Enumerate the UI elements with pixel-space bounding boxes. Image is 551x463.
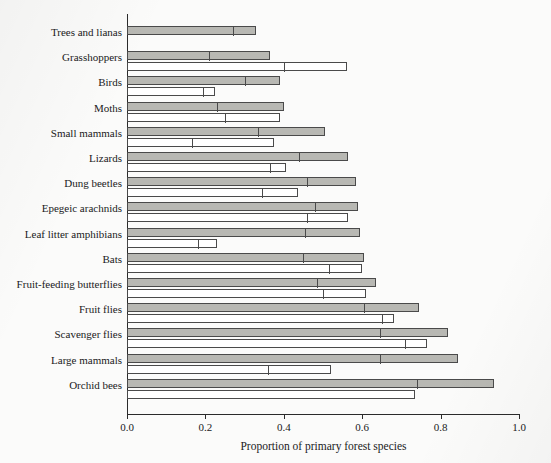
bar-segment-divider (284, 63, 285, 72)
bar-shaded (127, 102, 284, 111)
x-tick (362, 414, 363, 419)
bar-shaded (127, 127, 325, 136)
bar-open (127, 314, 394, 323)
chart-container: 0.00.20.40.60.81.0 Trees and lianasGrass… (0, 0, 551, 463)
category-label: Grasshoppers (62, 52, 122, 63)
category-label: Orchid bees (69, 380, 122, 391)
bar-open (127, 339, 427, 348)
bar-segment-divider (245, 77, 246, 86)
bar-segment-divider (405, 340, 406, 349)
bar-open (127, 264, 362, 273)
category-label-row: Small mammals (0, 128, 122, 139)
x-tick (441, 414, 442, 419)
bar-segment-divider (258, 128, 259, 137)
x-tick-label: 0.4 (277, 421, 291, 433)
category-label: Dung beetles (64, 178, 122, 189)
category-label: Fruit flies (79, 304, 122, 315)
bar-segment-divider (307, 214, 308, 223)
category-label: Trees and lianas (51, 27, 122, 38)
bar-open (127, 163, 286, 172)
bar-shaded (127, 354, 458, 363)
category-label: Leaf litter amphibians (25, 229, 122, 240)
bar-segment-divider (209, 52, 210, 61)
category-label-row: Lizards (0, 153, 122, 164)
x-tick-label: 0.0 (120, 421, 134, 433)
category-label: Large mammals (51, 355, 122, 366)
bar-shaded (127, 303, 419, 312)
bar-shaded (127, 379, 494, 388)
bar-segment-divider (262, 189, 263, 198)
category-label-row: Moths (0, 103, 122, 114)
category-label-row: Fruit-feeding butterflies (0, 279, 122, 290)
bar-segment-divider (329, 265, 330, 274)
bar-segment-divider (192, 139, 193, 148)
bar-segment-divider (303, 254, 304, 263)
bar-open (127, 87, 215, 96)
bar-segment-divider (307, 178, 308, 187)
bar-segment-divider (380, 329, 381, 338)
bar-shaded (127, 328, 448, 337)
bar-segment-divider (233, 27, 234, 36)
category-label: Fruit-feeding butterflies (17, 279, 122, 290)
category-label: Lizards (89, 153, 122, 164)
bar-segment-divider (203, 88, 204, 97)
bar-shaded (127, 278, 376, 287)
bar-open (127, 188, 298, 197)
bar-segment-divider (382, 315, 383, 324)
category-label-row: Fruit flies (0, 304, 122, 315)
x-tick-label: 1.0 (512, 421, 526, 433)
bar-open (127, 390, 415, 399)
bar-shaded (127, 253, 364, 262)
x-tick (127, 414, 128, 419)
bar-segment-divider (315, 203, 316, 212)
category-label: Moths (94, 103, 122, 114)
category-label-row: Leaf litter amphibians (0, 229, 122, 240)
bar-segment-divider (268, 366, 269, 375)
x-tick (519, 414, 520, 419)
category-label-row: Trees and lianas (0, 27, 122, 38)
bar-open (127, 213, 348, 222)
bar-segment-divider (364, 304, 365, 313)
category-label-row: Bats (0, 254, 122, 265)
bar-segment-divider (198, 240, 199, 249)
bar-segment-divider (305, 229, 306, 238)
category-label: Birds (98, 77, 122, 88)
bar-segment-divider (317, 279, 318, 288)
x-tick-label: 0.6 (355, 421, 369, 433)
x-tick (284, 414, 285, 419)
bar-open (127, 289, 366, 298)
bar-segment-divider (225, 114, 226, 123)
bar-segment-divider (417, 380, 418, 389)
category-label-row: Birds (0, 77, 122, 88)
bar-open (127, 62, 347, 71)
category-label: Scavenger flies (55, 329, 123, 340)
bar-segment-divider (380, 355, 381, 364)
x-tick-label: 0.2 (199, 421, 213, 433)
bar-shaded (127, 177, 356, 186)
bar-open (127, 138, 274, 147)
bar-segment-divider (270, 164, 271, 173)
bar-segment-divider (217, 103, 218, 112)
bar-open (127, 365, 331, 374)
category-label: Small mammals (51, 128, 122, 139)
bar-shaded (127, 152, 348, 161)
bar-open (127, 239, 217, 248)
category-label-row: Scavenger flies (0, 329, 122, 340)
category-label-row: Orchid bees (0, 380, 122, 391)
bar-shaded (127, 228, 360, 237)
x-axis-title: Proportion of primary forest species (127, 440, 520, 452)
bar-shaded (127, 51, 270, 60)
bar-shaded (127, 76, 280, 85)
category-label-row: Dung beetles (0, 178, 122, 189)
bar-shaded (127, 202, 358, 211)
category-label: Bats (102, 254, 122, 265)
bar-segment-divider (299, 153, 300, 162)
category-label: Epegeic arachnids (42, 203, 122, 214)
x-tick (205, 414, 206, 419)
category-label-row: Grasshoppers (0, 52, 122, 63)
x-axis-line (127, 414, 520, 415)
x-tick-label: 0.8 (434, 421, 448, 433)
bar-shaded (127, 26, 256, 35)
bar-segment-divider (323, 290, 324, 299)
category-label-row: Epegeic arachnids (0, 203, 122, 214)
